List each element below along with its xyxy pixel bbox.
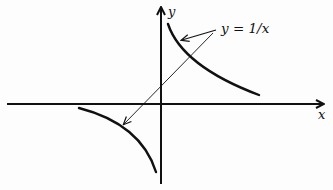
leader-arrow-lower bbox=[124, 33, 213, 124]
curve-equation-label: y = 1/x bbox=[220, 20, 270, 36]
x-axis-label: x bbox=[318, 107, 326, 122]
hyperbola-diagram: y x y = 1/x bbox=[0, 0, 333, 190]
y-axis-label: y bbox=[167, 4, 176, 19]
curve-branch-quadrant-3 bbox=[79, 108, 156, 172]
diagram-canvas: y x y = 1/x bbox=[0, 0, 333, 190]
